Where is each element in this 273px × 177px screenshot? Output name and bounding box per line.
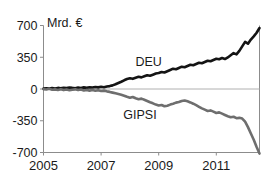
y-tick-label: 0 (31, 83, 38, 97)
x-tick-label: 2011 (202, 158, 230, 173)
x-tick-label: 2007 (87, 158, 116, 173)
line-chart: 7003500-350-700 2005200720092011 DEUGIPS… (0, 0, 273, 177)
y-tick-label: 700 (17, 19, 38, 33)
x-tick-label: 2009 (144, 158, 173, 173)
chart-container: 7003500-350-700 2005200720092011 DEUGIPS… (0, 0, 273, 177)
series-label-gipsi: GIPSI (123, 108, 156, 122)
unit-label: Mrd. € (47, 16, 82, 30)
x-tick-label: 2005 (29, 158, 58, 173)
y-tick-label: -350 (12, 114, 37, 128)
series-label-deu: DEU (135, 55, 161, 69)
y-tick-label: 350 (17, 51, 38, 65)
